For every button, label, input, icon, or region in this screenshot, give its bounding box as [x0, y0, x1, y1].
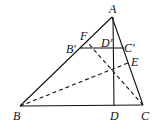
- triangle-diagram: A B C D B′ C′ D′ E F: [0, 0, 157, 130]
- label-d-prime: D′: [100, 36, 113, 50]
- label-d: D: [109, 109, 119, 123]
- label-c-prime: C′: [124, 41, 135, 55]
- label-f: F: [79, 29, 88, 43]
- side-ab: [20, 17, 112, 106]
- label-e: E: [130, 55, 139, 69]
- side-ac: [112, 17, 143, 105]
- altitude-ad: [113, 17, 114, 106]
- label-c: C: [141, 109, 150, 123]
- label-b: B: [13, 109, 21, 123]
- label-a: A: [108, 2, 117, 16]
- side-bc: [20, 105, 143, 106]
- dashed-be: [20, 63, 128, 106]
- label-b-prime: B′: [66, 42, 76, 56]
